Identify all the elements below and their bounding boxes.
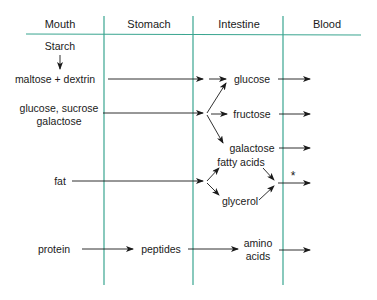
column-header-stomach: Stomach <box>127 18 170 30</box>
label-protein: protein <box>38 243 70 255</box>
label-fructose: fructose <box>233 108 270 120</box>
label-maltose-dextrin: maltose + dextrin <box>15 73 95 85</box>
label-fat: fat <box>54 175 66 187</box>
digestion-diagram: Mouth Stomach Intestine Blood Starch mal… <box>0 0 377 300</box>
label-galactose-mouth: galactose <box>37 115 82 127</box>
label-acids: acids <box>246 250 271 262</box>
column-header-intestine: Intestine <box>218 18 260 30</box>
label-glycerol: glycerol <box>222 195 258 207</box>
label-glucose: glucose <box>234 73 270 85</box>
label-amino: amino <box>244 237 273 249</box>
asterisk-note: * <box>291 170 296 182</box>
label-peptides: peptides <box>141 243 181 255</box>
label-fatty-acids: fatty acids <box>217 156 264 168</box>
column-header-mouth: Mouth <box>45 18 76 30</box>
label-starch: Starch <box>45 40 75 52</box>
label-galactose: galactose <box>230 142 275 154</box>
column-header-blood: Blood <box>313 18 341 30</box>
grid-lines <box>26 16 361 285</box>
label-glucose-sucrose: glucose, sucrose <box>20 102 99 114</box>
